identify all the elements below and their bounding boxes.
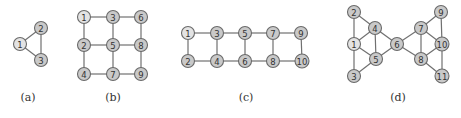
graph-panel-b: 136258479(b) (78, 11, 148, 105)
node-1: 1 (78, 11, 91, 24)
node-8: 8 (415, 53, 428, 66)
node-4: 4 (369, 22, 382, 35)
node-10: 10 (295, 54, 309, 68)
node-6: 6 (239, 55, 252, 68)
svg-text:1: 1 (17, 40, 22, 50)
svg-text:10: 10 (297, 57, 308, 67)
node-1: 1 (348, 38, 361, 51)
svg-text:3: 3 (38, 56, 43, 66)
svg-text:7: 7 (270, 29, 275, 39)
svg-text:7: 7 (110, 70, 115, 80)
svg-text:9: 9 (298, 29, 303, 39)
node-3: 3 (35, 54, 48, 67)
panel-caption-d: (d) (390, 91, 406, 104)
graph-panel-d: 2134567891011(d) (348, 6, 450, 105)
node-7: 7 (107, 68, 120, 81)
node-6: 6 (135, 11, 148, 24)
svg-text:4: 4 (372, 24, 377, 34)
svg-text:9: 9 (438, 8, 443, 18)
svg-text:4: 4 (214, 57, 219, 67)
svg-text:1: 1 (185, 29, 190, 39)
node-9: 9 (295, 27, 308, 40)
panel-caption-a: (a) (20, 91, 35, 104)
svg-text:3: 3 (351, 72, 356, 82)
node-5: 5 (370, 53, 383, 66)
graph-figure: 123(a)136258479(b)13579246810(c)21345678… (0, 0, 461, 118)
node-9: 9 (435, 6, 448, 19)
svg-text:6: 6 (242, 57, 247, 67)
node-4: 4 (211, 55, 224, 68)
svg-text:7: 7 (418, 24, 423, 34)
svg-text:9: 9 (138, 70, 143, 80)
node-7: 7 (267, 27, 280, 40)
node-5: 5 (239, 27, 252, 40)
graph-panel-a: 123(a) (14, 22, 48, 105)
node-9: 9 (135, 68, 148, 81)
svg-text:1: 1 (351, 40, 356, 50)
node-2: 2 (35, 22, 48, 35)
node-7: 7 (415, 22, 428, 35)
node-2: 2 (348, 6, 361, 19)
node-1: 1 (14, 38, 27, 51)
node-4: 4 (78, 68, 91, 81)
svg-text:8: 8 (418, 55, 423, 65)
svg-text:5: 5 (110, 41, 115, 51)
node-10: 10 (435, 37, 449, 51)
panel-caption-c: (c) (239, 91, 254, 104)
svg-text:6: 6 (138, 13, 143, 23)
node-8: 8 (267, 55, 280, 68)
svg-text:3: 3 (214, 29, 219, 39)
svg-text:2: 2 (38, 24, 43, 34)
node-3: 3 (211, 27, 224, 40)
node-5: 5 (107, 39, 120, 52)
svg-text:2: 2 (81, 41, 86, 51)
graph-panel-c: 13579246810(c) (182, 27, 310, 105)
svg-text:6: 6 (394, 40, 399, 50)
svg-text:3: 3 (110, 13, 115, 23)
svg-text:1: 1 (81, 13, 86, 23)
svg-text:5: 5 (373, 55, 378, 65)
node-3: 3 (107, 11, 120, 24)
node-11: 11 (435, 69, 449, 83)
panel-caption-b: (b) (105, 91, 121, 104)
node-8: 8 (135, 39, 148, 52)
node-3: 3 (348, 70, 361, 83)
node-2: 2 (182, 55, 195, 68)
svg-text:2: 2 (185, 57, 190, 67)
svg-text:11: 11 (437, 72, 448, 82)
node-2: 2 (78, 39, 91, 52)
svg-text:5: 5 (242, 29, 247, 39)
node-6: 6 (391, 38, 404, 51)
svg-text:8: 8 (270, 57, 275, 67)
node-1: 1 (182, 27, 195, 40)
svg-text:2: 2 (351, 8, 356, 18)
svg-text:8: 8 (138, 41, 143, 51)
svg-text:10: 10 (437, 40, 448, 50)
svg-text:4: 4 (81, 70, 86, 80)
